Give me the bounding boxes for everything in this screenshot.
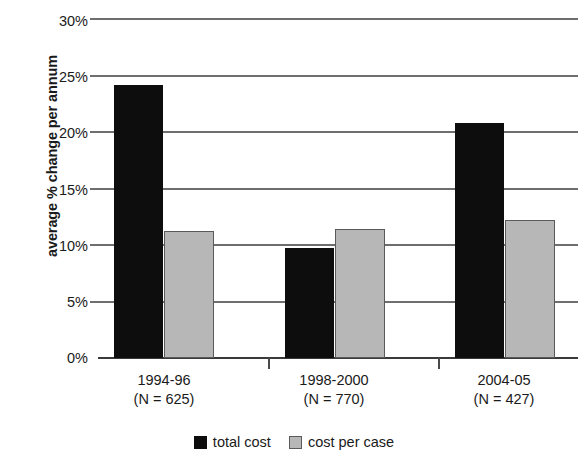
x-axis-tick <box>438 358 440 369</box>
x-group-label-1994-96: 1994-96 (N = 625) <box>79 371 249 409</box>
tick-15 <box>90 188 99 190</box>
bar-total-cost-2004-05 <box>455 123 504 358</box>
tick-25 <box>90 75 99 77</box>
tick-5 <box>90 301 99 303</box>
plot-area <box>98 18 578 358</box>
x-group-sublabel-line2: (N = 625) <box>79 390 249 409</box>
bar-total-cost-1994-96 <box>114 85 163 358</box>
legend-label-total-cost: total cost <box>213 434 271 450</box>
gridline-15 <box>98 188 578 190</box>
gridline-30 <box>98 18 578 20</box>
legend-label-cost-per-case: cost per case <box>308 434 394 450</box>
tick-20 <box>90 131 99 133</box>
y-axis-title: average % change per annum <box>44 6 60 306</box>
bar-cost-per-case-1994-96 <box>164 231 214 358</box>
x-group-label-2004-05: 2004-05 (N = 427) <box>419 371 588 409</box>
x-group-label-line1: 2004-05 <box>477 372 530 388</box>
tick-10 <box>90 244 99 246</box>
tick-30 <box>90 18 99 20</box>
y-tick-label: 10% <box>0 238 88 254</box>
bar-chart: average % change per annum 30% 25% 20% 1… <box>0 0 588 462</box>
x-group-label-1998-2000: 1998-2000 (N = 770) <box>249 371 419 409</box>
bar-cost-per-case-2004-05 <box>505 220 555 358</box>
legend-item-total-cost: total cost <box>194 434 271 450</box>
bar-cost-per-case-1998-2000 <box>335 229 385 358</box>
y-tick-label: 20% <box>0 125 88 141</box>
y-tick-label: 25% <box>0 69 88 85</box>
y-tick-label: 0% <box>0 350 88 366</box>
x-group-sublabel-line2: (N = 427) <box>419 390 588 409</box>
y-tick-label: 5% <box>0 294 88 310</box>
y-tick-label: 30% <box>0 13 88 29</box>
gridline-20 <box>98 131 578 133</box>
gridline-25 <box>98 75 578 77</box>
legend-item-cost-per-case: cost per case <box>289 434 394 450</box>
x-group-label-line1: 1994-96 <box>137 372 190 388</box>
y-tick-label: 15% <box>0 182 88 198</box>
x-group-sublabel-line2: (N = 770) <box>249 390 419 409</box>
legend-swatch-icon-cost-per-case <box>289 436 302 449</box>
legend-swatch-icon-total-cost <box>194 436 207 449</box>
bar-total-cost-1998-2000 <box>285 248 334 358</box>
chart-legend: total cost cost per case <box>0 434 588 450</box>
x-group-label-line1: 1998-2000 <box>299 372 368 388</box>
x-axis-tick <box>268 358 270 369</box>
